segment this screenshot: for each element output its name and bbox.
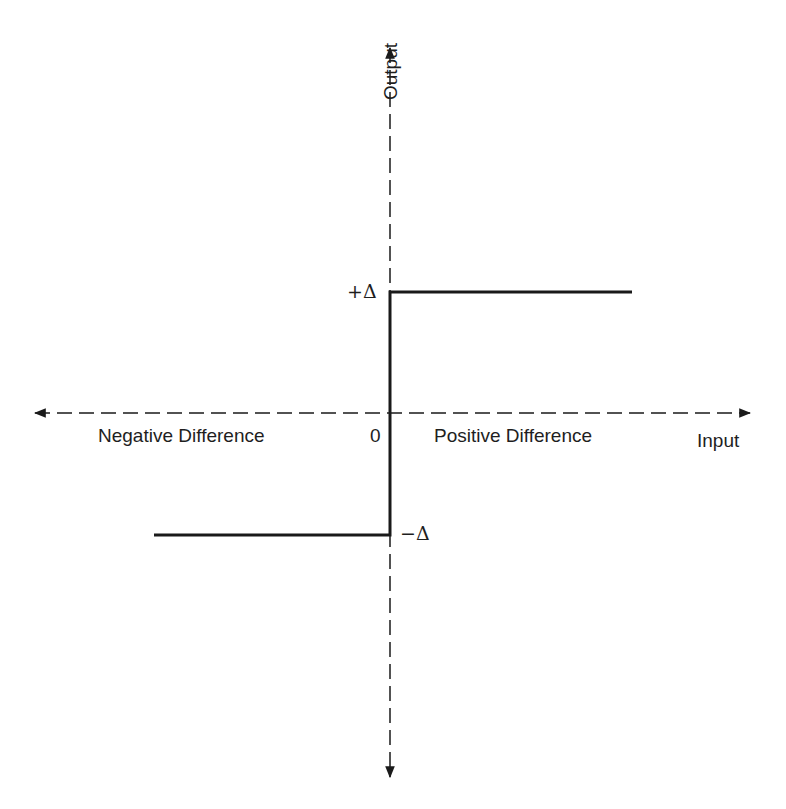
negative-difference-label: Negative Difference	[98, 425, 265, 447]
lower-level-label: −Δ	[400, 522, 430, 544]
origin-label: 0	[370, 425, 381, 447]
positive-difference-label: Positive Difference	[434, 425, 592, 447]
y-axis-label: Output	[380, 43, 402, 100]
diagram-canvas	[0, 0, 786, 809]
x-axis-label: Input	[697, 430, 739, 452]
upper-level-label: +Δ	[347, 280, 377, 302]
